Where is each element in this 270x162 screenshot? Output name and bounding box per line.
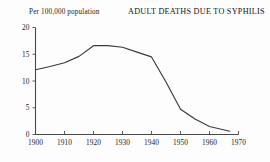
x-tick-label: 1900 — [28, 138, 43, 147]
x-tick-label: 1970 — [231, 138, 246, 147]
x-tick-label: 1950 — [173, 138, 188, 147]
y-tick-label: 5 — [26, 103, 30, 112]
x-tick-label: 1940 — [144, 138, 159, 147]
chart-plot-area: 05101520 1900191019201930194019501960197… — [0, 0, 270, 162]
x-tick-label: 1910 — [57, 138, 72, 147]
x-tick-label: 1920 — [86, 138, 101, 147]
x-tick-label: 1960 — [202, 138, 217, 147]
axis-group — [36, 28, 239, 135]
x-tick-label: 1930 — [115, 138, 130, 147]
y-tick-label: 10 — [22, 77, 30, 86]
y-axis-ticks: 05101520 — [22, 23, 35, 139]
x-axis-ticks: 19001910192019301940195019601970 — [28, 131, 246, 147]
data-series-line — [36, 46, 230, 132]
y-tick-label: 20 — [22, 23, 30, 32]
chart-page: Per 100,000 population ADULT DEATHS DUE … — [0, 0, 270, 162]
y-tick-label: 15 — [22, 50, 30, 59]
